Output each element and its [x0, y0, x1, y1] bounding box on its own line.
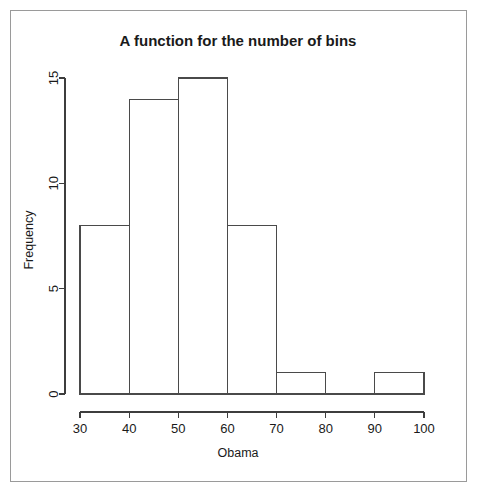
- x-tick-label-40: 40: [122, 421, 136, 436]
- x-tick-label-100: 100: [413, 421, 435, 436]
- histogram-bar: [129, 99, 178, 394]
- x-tick-label-90: 90: [368, 421, 382, 436]
- histogram-chart: A function for the number of bins 051015…: [0, 0, 477, 495]
- x-axis: 30405060708090100: [73, 412, 435, 436]
- histogram-bar: [227, 225, 276, 394]
- y-axis: 051015: [46, 71, 65, 398]
- y-axis-label: Frequency: [22, 210, 36, 270]
- x-axis-label: Obama: [218, 446, 259, 460]
- histogram-bars: [80, 78, 424, 394]
- x-tick-label-30: 30: [73, 421, 87, 436]
- x-tick-label-60: 60: [220, 421, 234, 436]
- y-tick-label-10: 10: [46, 176, 61, 190]
- histogram-bar: [178, 78, 227, 394]
- histogram-bar: [375, 373, 424, 394]
- figure-frame: A function for the number of bins 051015…: [0, 0, 477, 495]
- histogram-bar: [80, 225, 129, 394]
- y-tick-label-15: 15: [46, 71, 61, 85]
- histogram-bar: [277, 373, 326, 394]
- chart-title: A function for the number of bins: [120, 32, 357, 49]
- y-tick-label-0: 0: [46, 390, 61, 397]
- x-tick-label-80: 80: [318, 421, 332, 436]
- x-tick-label-70: 70: [269, 421, 283, 436]
- x-tick-label-50: 50: [171, 421, 185, 436]
- y-tick-label-5: 5: [46, 285, 61, 292]
